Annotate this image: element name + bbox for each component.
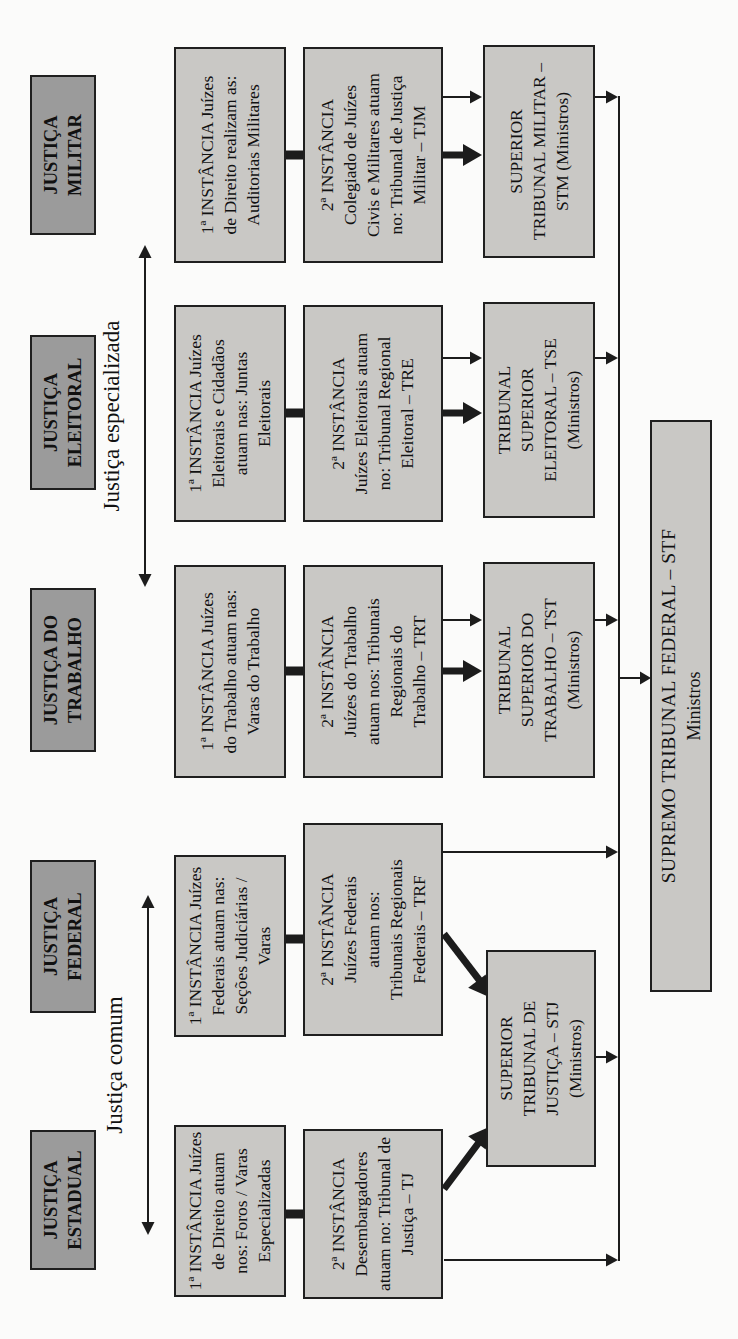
box-stm: SUPERIOR TRIBUNAL MILITAR – STM (Ministr… [483,45,595,258]
arrow-eleitoral-2a-tse-thin [443,352,482,365]
box-militar-2a-instancia: 2ª INSTÂNCIA Colegiado de Juízes Civis e… [303,47,443,263]
header-justica-estadual: JUSTIÇA ESTADUAL [30,1130,96,1270]
arrow-militar-2a-stm-thick [443,144,482,166]
box-tse: TRIBUNAL SUPERIOR ELEITORAL – TSE (Minis… [483,302,595,518]
arrow-militar-2a-stm-thin [443,91,482,104]
box-tst: TRIBUNAL SUPERIOR DO TRABALHO – TST (Min… [483,562,595,778]
stf-subtitle: Ministros [682,672,706,741]
arrow-tj-bypass [444,1254,618,1267]
arrow-tst-line [595,614,618,627]
stf-title: SUPREMO TRIBUNAL FEDERAL – STF [656,529,682,884]
box-estadual-2a-instancia: 2ª INSTÂNCIA Desembargadores atuam no: T… [303,1129,443,1299]
header-justica-federal: JUSTIÇA FEDERAL [30,860,96,1013]
arrow-trabalho-2a-tst-thin [443,614,482,627]
arrow-justica-especializada-span [139,245,152,587]
box-militar-1a-instancia: 1ª INSTÂNCIA Juízes de Direito realizam … [174,47,286,263]
box-estadual-1a-instancia: 1ª INSTÂNCIA Juízes de Direito atuam nos… [174,1125,286,1297]
diagram-canvas: JUSTIÇA ESTADUAL JUSTIÇA FEDERAL JUSTIÇA… [0,0,738,1339]
box-federal-2a-instancia: 2ª INSTÂNCIA Juízes Federais atuam nos: … [303,823,443,1036]
arrow-stj-line [596,1051,618,1064]
label-justica-comum: Justiça comum [102,935,128,1195]
box-eleitoral-1a-instancia: 1ª INSTÂNCIA Juízes Eleitorais e Cidadão… [174,305,286,522]
arrow-tse-line [595,352,618,365]
header-justica-militar: JUSTIÇA MILITAR [30,75,96,235]
arrow-stm-line [595,91,618,104]
arrow-line-stf [619,672,651,685]
arrow-justica-comum-span [142,895,155,1235]
box-stj: SUPERIOR TRIBUNAL DE JUSTIÇA – STJ (Mini… [486,950,596,1167]
box-trabalho-2a-instancia: 2ª INSTÂNCIA Juízes do Trabalho atuam no… [303,565,443,778]
label-justica-especializada: Justiça especializada [99,256,125,576]
box-stf: SUPREMO TRIBUNAL FEDERAL – STF Ministros [650,420,712,992]
box-eleitoral-2a-instancia: 2ª INSTÂNCIA Juízes Eleitorais atuam no:… [303,305,443,522]
header-justica-trabalho: JUSTIÇA DO TRABALHO [30,588,96,752]
arrow-trf-bypass [443,846,618,859]
connector-1a-2a [284,155,305,1214]
box-trabalho-1a-instancia: 1ª INSTÂNCIA Juízes do Trabalho atuam na… [174,565,286,778]
box-federal-1a-instancia: 1ª INSTÂNCIA Juízes Federais atuam nas: … [174,855,286,1037]
arrow-eleitoral-2a-tse-thick [443,402,482,424]
header-justica-eleitoral: JUSTIÇA ELEITORAL [30,335,96,490]
arrow-trabalho-2a-tst-thick [443,660,482,682]
